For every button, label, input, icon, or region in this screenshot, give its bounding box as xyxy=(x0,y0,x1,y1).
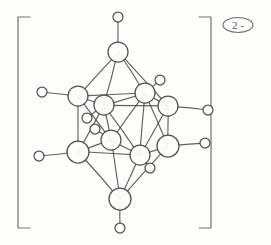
hydrogen-vertex xyxy=(200,138,210,148)
left-bracket xyxy=(18,17,30,228)
terminal-bond xyxy=(178,143,201,145)
terminal-bond xyxy=(177,107,204,110)
terminal-bond xyxy=(46,92,69,95)
charge-label-group: 2 - xyxy=(223,18,253,33)
hydrogen-vertex xyxy=(203,105,213,115)
charge-text: 2 - xyxy=(232,19,244,31)
terminal-bond xyxy=(43,153,68,156)
hydrogen-vertex xyxy=(113,12,123,22)
sketch-canvas: 2 - 2 - xyxy=(0,0,271,245)
boron-vertex xyxy=(135,83,155,103)
hydrogen-vertex xyxy=(145,163,155,173)
hydrogen-vertex xyxy=(115,223,125,233)
right-bracket xyxy=(199,17,211,228)
hydrogen-vertex xyxy=(37,87,47,97)
boron-vertex-group xyxy=(67,42,179,210)
boron-vertex xyxy=(108,42,128,62)
boron-vertex xyxy=(130,145,150,165)
boron-vertex xyxy=(158,96,178,116)
hydrogen-vertex xyxy=(82,113,92,123)
boron-vertex xyxy=(109,188,131,210)
boron-vertex xyxy=(157,135,179,157)
boron-vertex xyxy=(68,86,88,106)
hydrogen-vertex xyxy=(155,75,165,85)
hydrogen-vertex xyxy=(90,124,100,134)
structure-drawing: 2 - xyxy=(0,0,271,245)
boron-vertex xyxy=(67,141,89,163)
hydrogen-vertex xyxy=(34,151,44,161)
boron-vertex xyxy=(94,95,114,115)
boron-vertex xyxy=(101,130,121,150)
